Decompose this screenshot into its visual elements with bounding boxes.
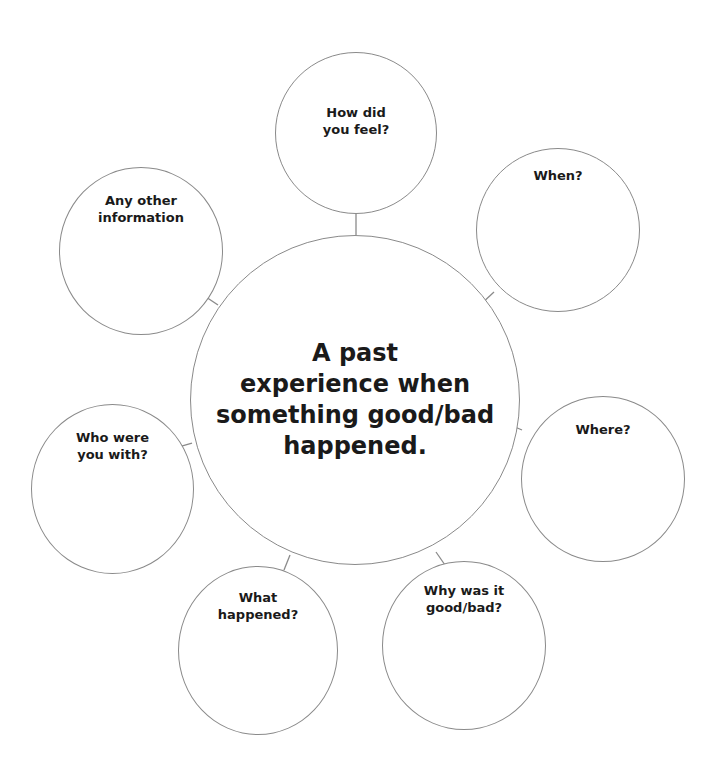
node-label: Any other: [60, 192, 222, 209]
node-label: information: [60, 209, 222, 226]
node-label: How did: [276, 104, 436, 121]
node-other-info[interactable]: Any other information: [59, 167, 223, 335]
node-who-with[interactable]: Who were you with?: [31, 404, 194, 574]
central-topic-circle: A past experience when something good/ba…: [190, 235, 520, 565]
node-label: What: [179, 589, 337, 606]
node-label: good/bad?: [383, 599, 545, 616]
central-line: A past: [216, 338, 494, 369]
node-how-did-you-feel[interactable]: How did you feel?: [275, 52, 437, 214]
node-what-happened[interactable]: What happened?: [178, 566, 338, 735]
node-label: Why was it: [383, 582, 545, 599]
central-line: happened.: [216, 431, 494, 462]
node-label: Who were: [32, 429, 193, 446]
central-topic-text: A past experience when something good/ba…: [191, 236, 519, 564]
node-label: When?: [477, 167, 639, 184]
central-line: something good/bad: [216, 400, 494, 431]
node-label: happened?: [179, 606, 337, 623]
node-label: you with?: [32, 446, 193, 463]
node-label: you feel?: [276, 121, 436, 138]
node-where[interactable]: Where?: [521, 396, 685, 562]
node-when[interactable]: When?: [476, 148, 640, 312]
central-line: experience when: [216, 369, 494, 400]
node-why-good-bad[interactable]: Why was it good/bad?: [382, 561, 546, 730]
node-label: Where?: [522, 421, 684, 438]
